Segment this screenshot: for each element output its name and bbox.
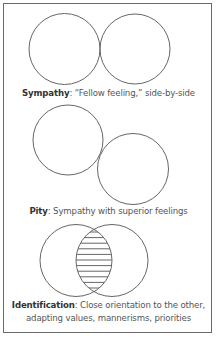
sympathy-caption: Sympathy: “Fellow feeling,” side-by-side [4, 87, 213, 100]
identification-term: Identification [12, 300, 75, 310]
sympathy-circle-other [100, 14, 170, 84]
identification-description-line1: Close orientation to the other, [78, 300, 206, 310]
pity-circle-self [33, 105, 103, 175]
sympathy-diagram [29, 14, 170, 85]
identification-caption: Identification: Close orientation to the… [4, 299, 213, 325]
identification-diagram [40, 225, 148, 297]
sympathy-circle-self [29, 14, 100, 85]
venn-diagrams [0, 0, 217, 338]
pity-diagram [33, 105, 169, 205]
overlap-hatch [60, 232, 130, 288]
sympathy-term: Sympathy [22, 88, 69, 98]
pity-term: Pity [29, 206, 47, 216]
sympathy-description: “Fellow feeling,” side-by-side [72, 88, 195, 98]
pity-caption: Pity: Sympathy with superior feelings [4, 205, 213, 218]
pity-circle-other [98, 134, 169, 205]
identification-description-line2: adapting values, mannerisms, priorities [4, 312, 213, 325]
identification-caption-line1: Identification: Close orientation to the… [4, 299, 213, 312]
pity-description: Sympathy with superior feelings [51, 206, 188, 216]
